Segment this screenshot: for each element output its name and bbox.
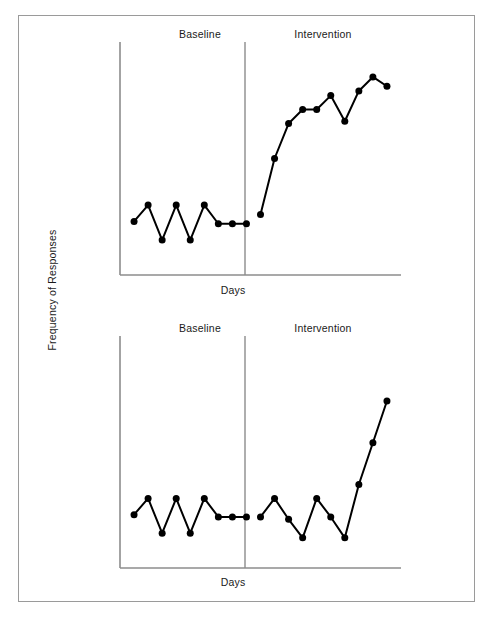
x-axis-label-bottom: Days	[170, 576, 296, 588]
chart-panel-top: Baseline Intervention Days	[19, 16, 476, 312]
chart-panel-bottom: Baseline Intervention Days	[19, 312, 476, 603]
figure-frame: Frequency of Responses Baseline Interven…	[18, 15, 475, 602]
chart-plot-bottom	[19, 312, 476, 603]
chart-plot-top	[19, 16, 476, 312]
x-axis-label-top: Days	[170, 284, 296, 296]
